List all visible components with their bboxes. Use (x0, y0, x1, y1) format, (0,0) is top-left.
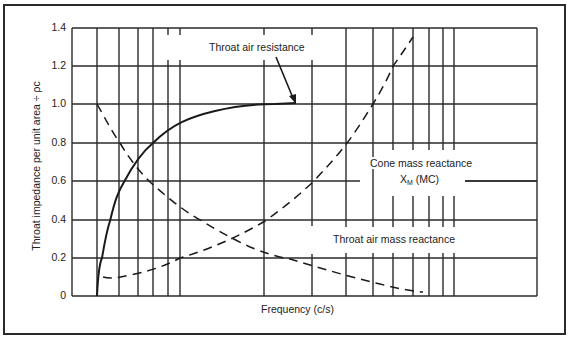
xm-symbol: X (400, 173, 407, 185)
xm-mc: (MC) (413, 173, 439, 185)
y-tick-1.4: 1.4 (36, 21, 66, 33)
label-throat-air-mass-reactance: Throat air mass reactance (333, 233, 455, 245)
y-tick-0.2: 0.2 (36, 251, 66, 263)
label-throat-air-resistance: Throat air resistance (207, 41, 307, 53)
resistance-arrow (276, 57, 296, 104)
label-cone-xm: XM (MC) (398, 173, 441, 186)
series-throat-air-resistance (97, 103, 296, 296)
series-throat-air-mass-reactance (97, 104, 423, 292)
y-axis-label: Throat impedance per unit area ÷ ρc (30, 81, 42, 250)
x-axis-label: Frequency (c/s) (261, 303, 334, 315)
y-tick-1.2: 1.2 (36, 59, 66, 71)
y-tick-0: 0 (36, 289, 66, 301)
label-cone-mass-reactance: Cone mass reactance (367, 157, 475, 169)
